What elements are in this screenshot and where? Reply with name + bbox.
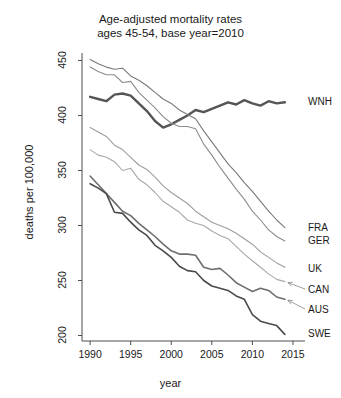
chart-figure: Age-adjusted mortality rates ages 45-54,… (0, 0, 341, 398)
series-line-fra (90, 59, 285, 227)
y-tick-400: 400 (56, 98, 68, 132)
x-tick-2000: 2000 (151, 348, 191, 360)
plot-area (0, 0, 341, 398)
series-label-fra: FRA (308, 222, 328, 233)
series-label-ger: GER (308, 235, 330, 246)
series-line-uk (90, 128, 285, 268)
y-tick-350: 350 (56, 153, 68, 187)
series-label-uk: UK (308, 263, 322, 274)
series-label-can: CAN (308, 284, 329, 295)
series-label-aus: AUS (308, 304, 329, 315)
x-tick-2005: 2005 (192, 348, 232, 360)
series-line-can (90, 150, 285, 282)
y-tick-300: 300 (56, 208, 68, 242)
y-tick-200: 200 (56, 318, 68, 352)
x-tick-2015: 2015 (273, 348, 313, 360)
series-label-wnh: WNH (308, 96, 332, 107)
series-line-swe (90, 184, 285, 335)
x-tick-1990: 1990 (70, 348, 110, 360)
series-line-aus (90, 176, 285, 299)
y-tick-250: 250 (56, 263, 68, 297)
x-tick-2010: 2010 (232, 348, 272, 360)
y-tick-450: 450 (56, 43, 68, 77)
x-tick-1995: 1995 (111, 348, 151, 360)
series-line-wnh (90, 94, 285, 128)
series-label-swe: SWE (308, 328, 331, 339)
